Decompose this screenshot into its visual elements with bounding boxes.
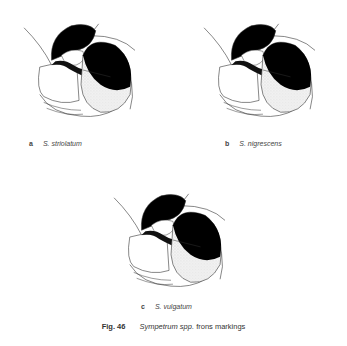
figure-a-drawing: .fa .capL{fill:url(#hatch)} .fa .capR{fi… — [22, 16, 140, 124]
species-name: S. vulgatum — [155, 303, 192, 310]
figure-b-drawing: .fb .capL{fill:url(#hatchlight)} .fb .ca… — [202, 16, 320, 124]
figure-letter: c — [141, 303, 145, 310]
figure-number: Fig. 46 — [102, 322, 126, 331]
figure-c-label: cS. vulgatum — [141, 303, 192, 310]
figure-letter: a — [29, 140, 33, 147]
figure-a-label: aS. striolatum — [29, 140, 82, 147]
species-name: S. nigrescens — [239, 140, 281, 147]
figure-letter: b — [225, 140, 229, 147]
figure-c-drawing: .fc .capL{fill:url(#hatch)} .fc .capR{fi… — [112, 186, 230, 294]
caption-text: frons markings — [196, 322, 245, 331]
caption-genus: Sympetrum spp. — [139, 322, 194, 331]
figure-caption: Fig. 46Sympetrum spp. frons markings — [0, 322, 347, 331]
figure-b-label: bS. nigrescens — [225, 140, 282, 147]
species-name: S. striolatum — [43, 140, 82, 147]
